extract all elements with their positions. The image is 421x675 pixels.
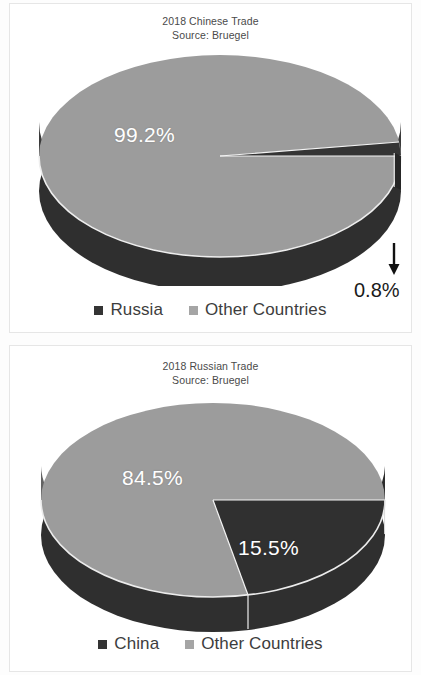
pie1-russia-wall — [395, 153, 401, 190]
legend-item-russia[interactable]: Russia — [94, 300, 163, 320]
chart2-plot-area: 84.5% 15.5% — [10, 346, 411, 626]
chart2-value-china: 15.5% — [238, 536, 299, 560]
legend-swatch-russia-icon — [94, 306, 103, 315]
pie-svg-russian — [36, 402, 396, 632]
legend-label-other-countries: Other Countries — [205, 300, 327, 320]
pie-chart-chinese-trade — [30, 56, 410, 286]
callout-arrow-icon — [386, 242, 402, 276]
chart1-value-other-countries: 99.2% — [114, 123, 175, 147]
legend-item-china[interactable]: China — [98, 634, 159, 654]
chart1-value-russia-callout: 0.8% — [354, 279, 400, 302]
legend-item-other-countries-2[interactable]: Other Countries — [185, 634, 323, 654]
figure-sheet: 2018 Chinese Trade Source: Bruegel — [0, 0, 421, 675]
legend-label-other-countries-2: Other Countries — [201, 634, 323, 654]
legend-label-russia: Russia — [110, 300, 163, 320]
pie-chart-russian-trade — [36, 402, 396, 632]
chart1-plot-area: 99.2% 0.8% — [10, 4, 411, 284]
legend-swatch-other-countries-2-icon — [185, 640, 194, 649]
legend-label-china: China — [114, 634, 159, 654]
chart2-legend: China Other Countries — [10, 634, 411, 654]
legend-swatch-other-countries-icon — [189, 306, 198, 315]
chart1-legend: Russia Other Countries — [10, 300, 411, 320]
legend-item-other-countries[interactable]: Other Countries — [189, 300, 327, 320]
pie-svg-chinese — [30, 56, 410, 286]
chart-panel-chinese-trade: 2018 Chinese Trade Source: Bruegel — [9, 3, 412, 333]
chart-panel-russian-trade: 2018 Russian Trade Source: Bruegel — [9, 345, 412, 672]
chart2-value-other-countries: 84.5% — [122, 466, 183, 490]
legend-swatch-china-icon — [98, 640, 107, 649]
